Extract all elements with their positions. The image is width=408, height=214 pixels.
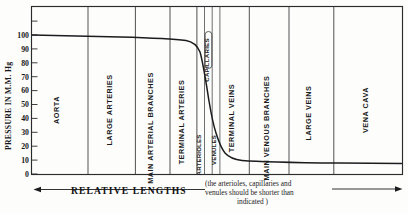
y-tick-label: 90 <box>21 45 29 54</box>
note-line: venules should be shorter than <box>205 188 294 197</box>
note-line: (the arterioles, capillaries and <box>205 179 292 188</box>
segment-label-large-arteries: LARGE ARTERIES <box>105 74 114 145</box>
y-tick-label: 70 <box>21 73 29 82</box>
y-axis-tick-labels: 100 90 80 70 60 50 40 30 20 10 0 <box>17 31 29 179</box>
segment-label-main-arterial-branches: MAIN ARTERIAL BRANCHES <box>146 72 155 184</box>
segment-label-terminal-veins: TERMINAL VEINS <box>227 84 236 153</box>
segment-label-capillaries: CAPILLARIES <box>203 38 210 81</box>
note-line: indicated ) <box>237 197 269 206</box>
y-tick-label: 0 <box>25 170 29 179</box>
pressure-vs-vascular-bed-chart: 100 90 80 70 60 50 40 30 20 10 0 PRESSUR… <box>0 0 408 214</box>
y-tick-label: 40 <box>21 114 29 123</box>
segment-label-main-venous-branches: MAIN VENOUS BRANCHES <box>262 76 271 181</box>
plot-frame <box>32 7 403 175</box>
y-tick-label: 60 <box>21 86 29 95</box>
segment-label-aorta: AORTA <box>52 96 61 124</box>
y-tick-label: 80 <box>21 59 29 68</box>
y-tick-label: 20 <box>21 142 29 151</box>
segment-label-vena-cava: VENA CAVA <box>361 87 370 133</box>
y-axis-title: PRESSURE IN M.M. Hg <box>4 62 13 150</box>
y-tick-label: 50 <box>21 100 29 109</box>
segment-label-venules: VENULES <box>210 135 217 165</box>
y-tick-label: 100 <box>17 31 29 40</box>
segment-label-arterioles: ARTERIOLES <box>195 135 202 176</box>
segment-label-large-veins: LARGE VEINS <box>304 86 313 141</box>
chart-note: (the arterioles, capillaries and venules… <box>205 179 294 206</box>
y-axis-ticks <box>32 21 38 174</box>
y-tick-label: 30 <box>21 128 29 137</box>
x-axis-title: RELATIVE LENGTHS <box>71 185 187 196</box>
segment-label-terminal-arteries: TERMINAL ARTERIES <box>177 80 186 165</box>
y-tick-label: 10 <box>21 156 29 165</box>
